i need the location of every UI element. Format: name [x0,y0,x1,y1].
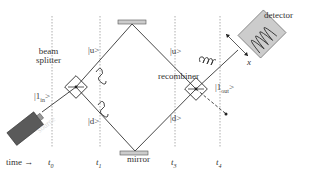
tick-t1-sub: 1 [99,163,102,169]
recombiner-label: recombiner [158,72,199,81]
interferometer-diagram [0,0,312,174]
wave-upper [96,68,106,84]
state-upper-label: |u> [88,46,99,55]
tick-t3: t3 [171,158,177,169]
detector-label: detector [264,11,293,20]
beam-splitter [65,76,88,99]
time-axis-label: time → [6,158,33,167]
state-input-label: |1in> [34,92,50,103]
time-arrow-icon: → [24,157,33,167]
mirror-label: mirror [127,155,150,164]
state-lower-label: |d> [88,117,99,126]
mirror-top [118,20,146,24]
lower-arm-1 [76,87,135,151]
wave-lower [98,101,108,117]
beam-splitter-label: beam splitter [36,47,61,65]
lower-arm-2 [135,89,196,151]
state-input-sub: in [40,97,45,103]
state-output-sub: out [221,88,229,94]
state-upper-label-right: |u> [170,47,181,56]
state-output-label: |1out> [215,83,234,94]
tick-t4-sub: 4 [219,163,222,169]
beam-paths [42,24,238,151]
tick-t3-sub: 3 [174,163,177,169]
state-lower-label-right: |d> [170,114,181,123]
tick-t4: t4 [216,158,222,169]
time-lines [52,16,220,148]
detector-x-label: x [247,58,251,67]
time-label: time [6,157,22,167]
dark-port-dot [225,113,228,116]
wave-output [199,57,216,65]
beam-splitter-label-line2: splitter [36,56,61,65]
tick-t0: t0 [48,158,54,169]
tick-t1: t1 [96,158,102,169]
upper-arm-1 [76,24,132,87]
tick-t0-sub: 0 [51,163,54,169]
